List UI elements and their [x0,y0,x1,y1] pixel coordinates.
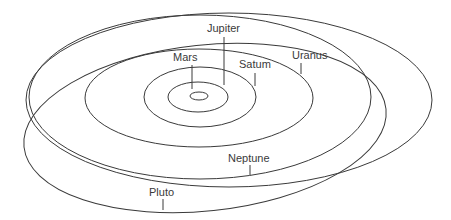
label-pluto: Pluto [149,186,174,198]
label-uranus: Uranus [292,49,327,61]
label-mars: Mars [173,51,197,63]
label-jupiter: Jupiter [207,22,240,34]
orbit-mars [168,82,228,112]
orbit-pluto [15,26,394,220]
orbit-uranus [29,15,371,179]
solar-system-orbit-diagram: Mars Jupiter Satum Uranus Neptune Pluto [0,0,451,220]
orbit-jupiter [144,67,256,127]
orbit-inner [190,92,208,100]
label-saturn: Satum [239,58,271,70]
label-neptune: Neptune [228,152,270,164]
orbit-saturn [85,49,313,147]
